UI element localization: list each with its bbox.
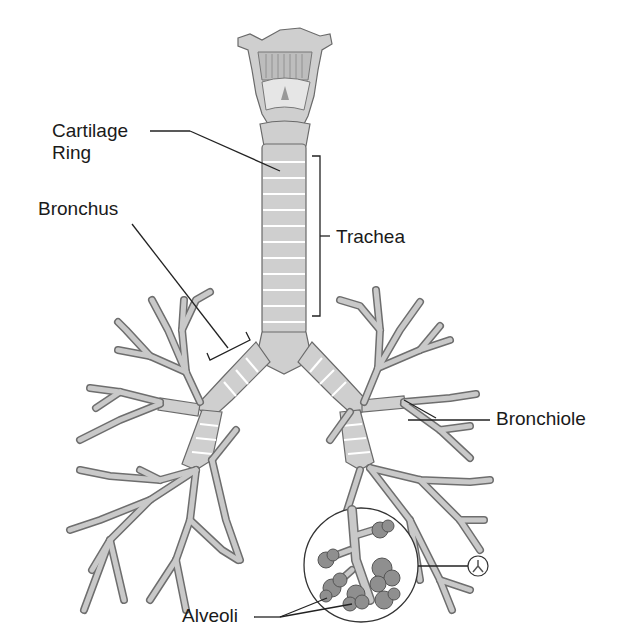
cartilage-ring-label: Cartilage Ring (52, 120, 128, 164)
alveoli-label: Alveoli (182, 605, 238, 627)
bronchiole-label: Bronchiole (496, 408, 586, 430)
left-bronchiole-tree (70, 292, 240, 610)
bronchus-bracket (132, 224, 250, 360)
alveoli-magnified-view (304, 508, 418, 622)
trachea-bracket (312, 156, 330, 316)
cartilage-ring-label-line2: Ring (52, 142, 128, 164)
cartilage-ring-label-line1: Cartilage (52, 120, 128, 142)
alveoli-leader-2 (280, 598, 327, 617)
respiratory-tree-diagram (0, 0, 627, 643)
bronchus-label: Bronchus (38, 198, 118, 220)
trachea-label: Trachea (336, 226, 405, 248)
larynx (238, 28, 332, 146)
trachea (256, 144, 312, 374)
